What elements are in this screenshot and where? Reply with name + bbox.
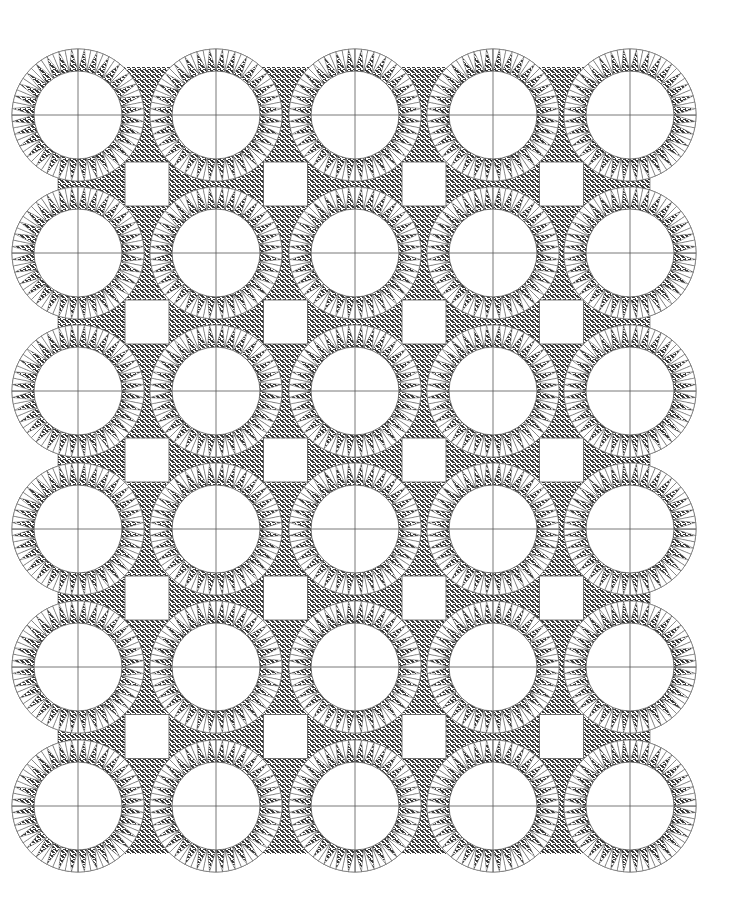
white-square xyxy=(402,576,446,620)
ring-block xyxy=(12,325,144,457)
white-square xyxy=(264,715,308,759)
ring-block xyxy=(12,601,144,733)
ring-block xyxy=(12,740,144,872)
ring-block xyxy=(564,740,696,872)
ring-block xyxy=(289,740,421,872)
ring-block xyxy=(289,325,421,457)
ring-block xyxy=(564,187,696,319)
white-square xyxy=(540,715,584,759)
ring-block xyxy=(150,740,282,872)
ring-block xyxy=(12,463,144,595)
white-square xyxy=(125,438,169,482)
ring-block xyxy=(564,601,696,733)
ring-block xyxy=(150,601,282,733)
ring-block xyxy=(12,187,144,319)
ring-block xyxy=(427,49,559,181)
white-square xyxy=(264,162,308,206)
ring-block xyxy=(150,49,282,181)
ring-block xyxy=(427,740,559,872)
ring-block xyxy=(564,325,696,457)
ring-block xyxy=(564,49,696,181)
white-square xyxy=(540,300,584,344)
white-square xyxy=(264,300,308,344)
white-square xyxy=(125,576,169,620)
ring-block xyxy=(427,463,559,595)
white-square xyxy=(402,438,446,482)
white-square xyxy=(125,300,169,344)
white-square xyxy=(540,162,584,206)
ring-block xyxy=(289,463,421,595)
ring-block xyxy=(564,463,696,595)
ring-block xyxy=(12,49,144,181)
ring-block xyxy=(289,49,421,181)
quilt-diagram xyxy=(0,0,739,911)
ring-block xyxy=(150,325,282,457)
ring-block xyxy=(427,187,559,319)
white-square xyxy=(402,715,446,759)
ring-block xyxy=(289,187,421,319)
white-square xyxy=(264,438,308,482)
white-square xyxy=(402,162,446,206)
ring-block xyxy=(289,601,421,733)
white-square xyxy=(402,300,446,344)
white-square xyxy=(540,576,584,620)
white-square xyxy=(264,576,308,620)
ring-block xyxy=(150,463,282,595)
ring-block xyxy=(427,325,559,457)
ring-block xyxy=(150,187,282,319)
white-square xyxy=(125,162,169,206)
ring-block xyxy=(427,601,559,733)
white-square xyxy=(125,715,169,759)
white-square xyxy=(540,438,584,482)
